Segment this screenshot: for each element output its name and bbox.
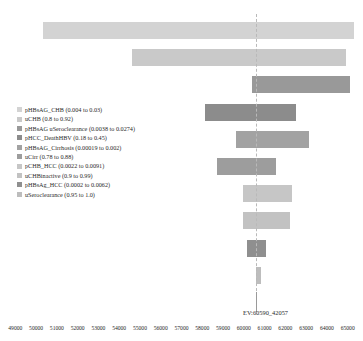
tornado-chart: pHBsAG_CHB (0.004 to 0.03)uCHB (0.8 to 0… — [0, 0, 363, 341]
reference-line-label: EV:60590_42057 — [243, 309, 288, 316]
x-axis-tick-label: 56000 — [154, 325, 168, 331]
legend-item: uSeroclearance (0.95 to 1.0) — [17, 190, 135, 199]
tornado-bar — [236, 131, 309, 148]
legend-item-label: uCirr (0.78 to 0.88) — [25, 152, 73, 161]
legend-item: pHBsAG uSeroclearance (0.0038 to 0.0274) — [17, 124, 135, 133]
legend-swatch-icon — [17, 154, 22, 159]
tornado-bar — [43, 22, 354, 39]
tornado-bar — [205, 104, 296, 121]
legend-item: uCirr (0.78 to 0.88) — [17, 152, 135, 161]
legend-swatch-icon — [17, 173, 22, 178]
tornado-bar — [243, 212, 290, 229]
x-axis-tick-label: 63000 — [299, 325, 313, 331]
x-axis-tick-label: 57000 — [175, 325, 189, 331]
legend-swatch-icon — [17, 182, 22, 187]
x-axis-tick-label: 52000 — [71, 325, 85, 331]
legend-item-label: pHBsAG uSeroclearance (0.0038 to 0.0274) — [25, 124, 135, 133]
expected-value-line — [256, 14, 257, 306]
legend-item: pHBsAG_CHB (0.004 to 0.03) — [17, 105, 135, 114]
legend-item-label: pHBsAG_Cirrhosis (0.00019 to 0.002) — [25, 143, 121, 152]
legend-swatch-icon — [17, 135, 22, 140]
legend-item-label: pHCC_DeathHBV (0.18 to 0.45) — [25, 133, 107, 142]
legend-item: pHCC_DeathHBV (0.18 to 0.45) — [17, 133, 135, 142]
tornado-bar — [132, 49, 346, 66]
x-axis-tick-label: 54000 — [112, 325, 126, 331]
legend-item: pHBsAG_Cirrhosis (0.00019 to 0.002) — [17, 143, 135, 152]
legend-item: pHBsAg_HCC (0.0002 to 0.0062) — [17, 180, 135, 189]
tornado-bar — [217, 158, 276, 175]
x-axis-tick-label: 53000 — [91, 325, 105, 331]
x-axis-tick-label: 58000 — [195, 325, 209, 331]
x-axis: 4900050000510005200053000540005500056000… — [0, 325, 363, 337]
legend: pHBsAG_CHB (0.004 to 0.03)uCHB (0.8 to 0… — [17, 105, 135, 199]
x-axis-tick-label: 50000 — [29, 325, 43, 331]
legend-item-label: uCHB (0.8 to 0.92) — [25, 114, 73, 123]
legend-swatch-icon — [17, 107, 22, 112]
x-axis-tick-label: 60000 — [237, 325, 251, 331]
legend-swatch-icon — [17, 117, 22, 122]
legend-item-label: uCHBinactive (0.9 to 0.99) — [25, 171, 93, 180]
x-axis-tick-label: 61000 — [258, 325, 272, 331]
legend-item: uCHB (0.8 to 0.92) — [17, 114, 135, 123]
x-axis-tick-label: 51000 — [50, 325, 64, 331]
legend-item-label: uSeroclearance (0.95 to 1.0) — [25, 190, 95, 199]
legend-swatch-icon — [17, 126, 22, 131]
legend-swatch-icon — [17, 192, 22, 197]
legend-item-label: pCHB_HCC (0.0022 to 0.0091) — [25, 161, 104, 170]
x-axis-tick-label: 49000 — [8, 325, 22, 331]
legend-item-label: pHBsAg_HCC (0.0002 to 0.0062) — [25, 180, 110, 189]
x-axis-tick-label: 59000 — [216, 325, 230, 331]
x-axis-tick-label: 55000 — [133, 325, 147, 331]
legend-item: pCHB_HCC (0.0022 to 0.0091) — [17, 161, 135, 170]
legend-swatch-icon — [17, 145, 22, 150]
x-axis-tick-label: 64000 — [320, 325, 334, 331]
x-axis-tick-label: 65000 — [341, 325, 355, 331]
x-axis-tick-label: 62000 — [278, 325, 292, 331]
legend-swatch-icon — [17, 164, 22, 169]
legend-item-label: pHBsAG_CHB (0.004 to 0.03) — [25, 105, 102, 114]
tornado-bar — [243, 185, 291, 202]
legend-item: uCHBinactive (0.9 to 0.99) — [17, 171, 135, 180]
tornado-bar — [252, 76, 350, 93]
